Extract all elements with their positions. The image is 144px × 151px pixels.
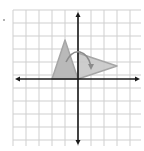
original-triangle [52, 40, 78, 79]
x-axis-arrow-right-icon [135, 77, 140, 82]
coordinate-plane-diagram [0, 0, 144, 151]
axes [15, 12, 140, 145]
coordinate-grid [0, 0, 144, 151]
y-axis-arrow-up-icon [76, 12, 81, 17]
y-axis-arrow-down-icon [76, 140, 81, 145]
marker-dot [3, 19, 5, 21]
x-axis-arrow-left-icon [15, 77, 20, 82]
